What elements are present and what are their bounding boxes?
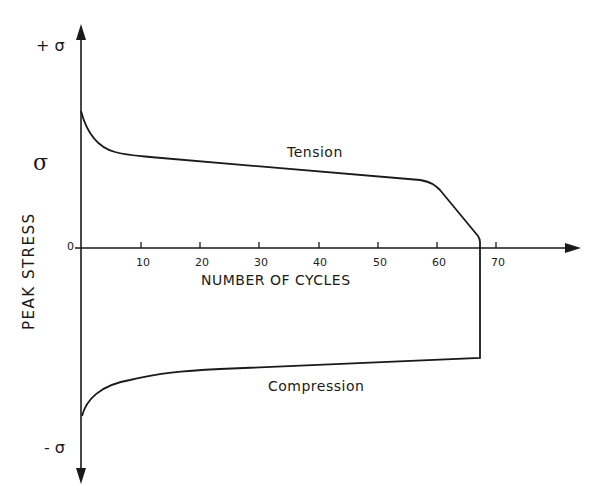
y-sigma-symbol: σ bbox=[33, 150, 48, 175]
x-tick-label: 30 bbox=[254, 256, 268, 269]
tension-curve bbox=[81, 111, 480, 248]
tension-annotation: Tension bbox=[287, 144, 343, 160]
x-tick-label: 70 bbox=[491, 256, 505, 269]
x-tick-label: 50 bbox=[373, 256, 387, 269]
y-axis-down-arrow-icon bbox=[76, 468, 86, 484]
chart-canvas bbox=[0, 0, 599, 486]
x-axis-arrow-icon bbox=[565, 243, 581, 253]
x-tick-label: 60 bbox=[432, 256, 446, 269]
y-top-label: + σ bbox=[36, 36, 65, 55]
y-bottom-label: - σ bbox=[44, 438, 65, 457]
x-tick-label: 10 bbox=[136, 256, 150, 269]
x-tick-label: 20 bbox=[195, 256, 209, 269]
y-axis-up-arrow-icon bbox=[76, 24, 86, 40]
y-zero-label: 0 bbox=[67, 240, 74, 253]
x-axis-label: NUMBER OF CYCLES bbox=[201, 272, 351, 288]
x-ticks bbox=[141, 242, 496, 248]
y-axis-label: PEAK STRESS bbox=[20, 212, 38, 330]
x-tick-label: 40 bbox=[313, 256, 327, 269]
compression-annotation: Compression bbox=[268, 378, 364, 394]
